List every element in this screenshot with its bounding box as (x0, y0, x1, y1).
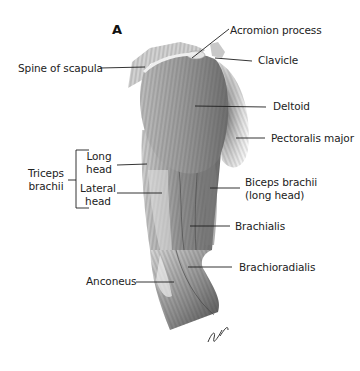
label-long-head-line2: head (84, 163, 114, 176)
label-pectoralis-major: Pectoralis major (271, 132, 354, 145)
label-deltoid: Deltoid (273, 100, 310, 113)
panel-letter: A (112, 22, 122, 37)
label-triceps-line2: brachii (26, 180, 66, 193)
anatomy-figure: A Acromion process Clavicle Spine of sca… (0, 0, 360, 371)
label-brachioradialis: Brachioradialis (239, 261, 315, 274)
label-lateral-head: Lateral head (80, 182, 116, 208)
label-lateral-head-line1: Lateral (80, 182, 116, 195)
label-acromion-process: Acromion process (230, 24, 322, 37)
label-triceps-line1: Triceps (26, 167, 66, 180)
label-long-head: Long head (84, 150, 114, 176)
label-lateral-head-line2: head (80, 195, 116, 208)
label-long-head-line1: Long (84, 150, 114, 163)
label-brachialis: Brachialis (235, 220, 285, 233)
label-triceps-brachii: Triceps brachii (26, 167, 66, 193)
label-clavicle: Clavicle (258, 54, 298, 67)
label-biceps-brachii: Biceps brachii (long head) (245, 176, 317, 202)
label-biceps-line1: Biceps brachii (245, 176, 317, 189)
label-biceps-line2: (long head) (245, 189, 317, 202)
artist-signature (208, 328, 228, 342)
leader-clavicle (215, 58, 252, 61)
forearm-muscles (150, 250, 219, 330)
label-spine-of-scapula: Spine of scapula (18, 62, 103, 75)
label-anconeus: Anconeus (86, 275, 136, 288)
